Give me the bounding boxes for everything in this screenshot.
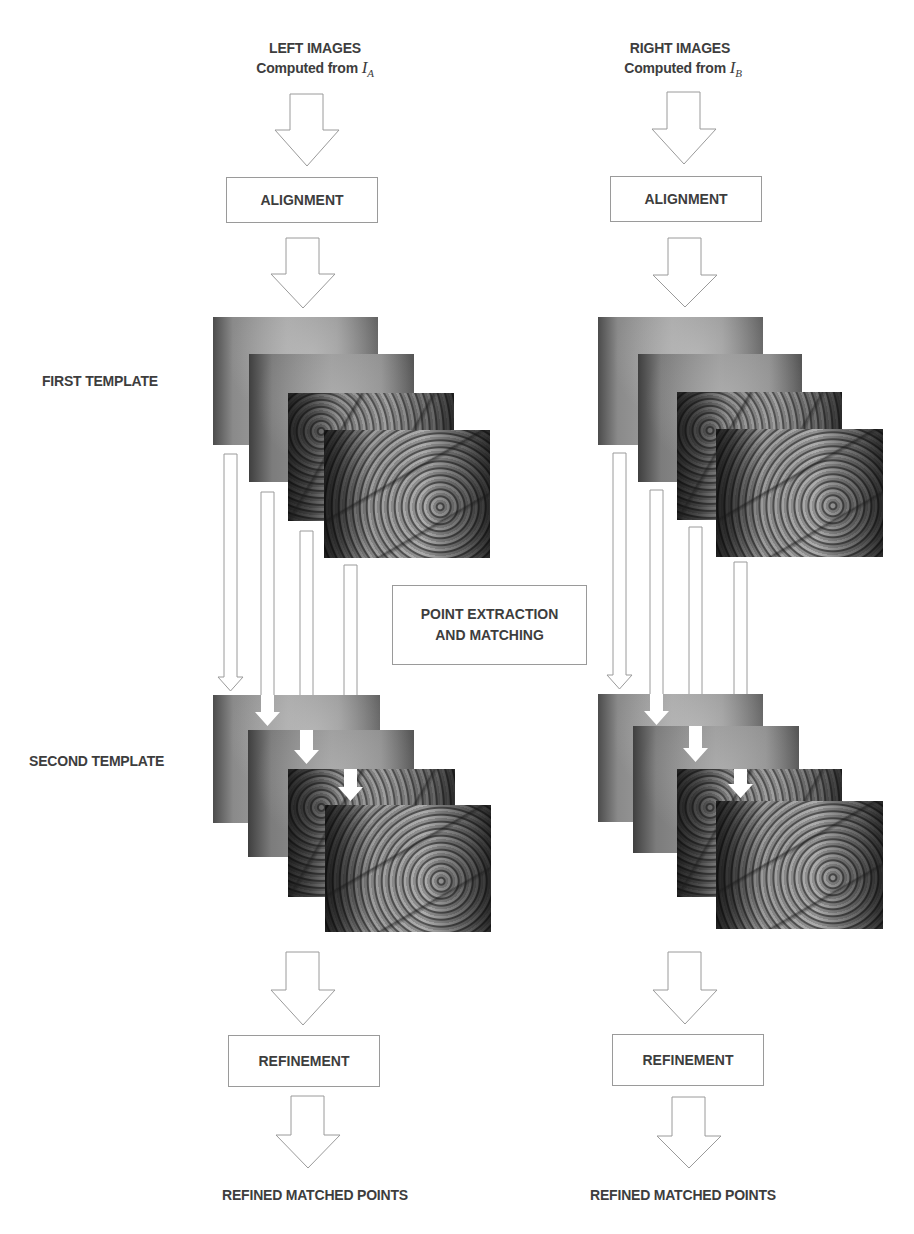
first-template-label: FIRST TEMPLATE [42,373,158,389]
left-down-arrow-1-icon [274,93,340,168]
center-box-line-2: AND MATCHING [435,625,544,646]
right-images-title: RIGHT IMAGES [585,40,775,56]
left-match-arrowhead-4-icon [338,769,364,803]
right-down-arrow-3-icon [652,951,718,1026]
left-subtitle-variable: IA [362,58,374,77]
right-refinement-box: REFINEMENT [612,1034,764,1086]
right-down-arrow-4-icon [656,1096,722,1170]
left-alignment-box: ALIGNMENT [226,177,378,223]
right-subtitle-variable: IB [730,58,742,77]
left-match-arrowhead-3-icon [294,730,320,766]
right-images-subtitle: Computed from IB [568,58,798,79]
left-match-arrow-1-icon [218,453,244,693]
left-down-arrow-4-icon [275,1095,341,1170]
left-second-template-image-4 [325,805,491,932]
right-refinement-label: REFINEMENT [643,1050,734,1071]
right-match-arrow-2-icon [644,489,670,727]
right-down-arrow-1-icon [651,91,717,166]
left-match-arrowhead-2-icon [255,695,281,728]
center-box-line-1: POINT EXTRACTION [421,604,559,625]
right-subtitle-prefix: Computed from [624,60,729,76]
right-match-arrow-1-icon [607,452,633,692]
right-second-template-image-4 [716,801,883,929]
right-down-arrow-2-icon [652,237,718,309]
left-down-arrow-3-icon [270,951,336,1027]
right-match-arrowhead-2-icon [644,694,670,727]
left-images-title: LEFT IMAGES [220,40,410,56]
point-extraction-matching-box: POINT EXTRACTION AND MATCHING [392,585,587,665]
left-alignment-label: ALIGNMENT [260,190,343,211]
right-refined-matched-points-label: REFINED MATCHED POINTS [563,1187,803,1203]
right-alignment-box: ALIGNMENT [610,176,762,222]
right-match-arrowhead-3-icon [683,726,709,764]
left-match-arrow-2-icon [255,491,281,728]
left-refinement-box: REFINEMENT [228,1035,380,1087]
left-first-template-image-4 [324,430,490,558]
left-refined-matched-points-label: REFINED MATCHED POINTS [195,1187,435,1203]
left-images-subtitle: Computed from IA [200,58,430,79]
right-alignment-label: ALIGNMENT [644,189,727,210]
second-template-label: SECOND TEMPLATE [29,753,164,769]
left-subtitle-prefix: Computed from [256,60,361,76]
left-refinement-label: REFINEMENT [259,1051,350,1072]
right-match-arrowhead-4-icon [728,769,754,800]
left-down-arrow-2-icon [270,237,336,309]
right-first-template-image-4 [716,429,883,557]
